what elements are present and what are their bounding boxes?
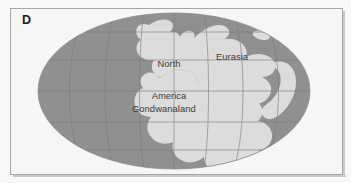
- panel-shadow-right: [343, 11, 345, 176]
- map-label-north-america-line2: America: [141, 91, 197, 102]
- panel-shadow-bottom: [13, 175, 346, 177]
- map-label-gondwanaland: Gondwanaland: [132, 104, 196, 115]
- map-label-eurasia: Eurasia: [216, 52, 248, 63]
- figure-root: D North America Eurasia Gondwanaland: [0, 0, 351, 183]
- map-label-north-america-line1: North: [141, 59, 197, 70]
- panel-letter-label: D: [22, 14, 31, 27]
